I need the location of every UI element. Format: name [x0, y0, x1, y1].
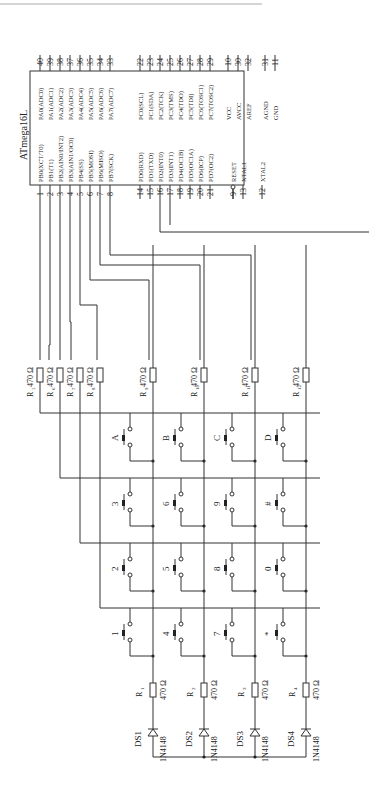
- chip-pin-number: 29: [206, 58, 215, 66]
- switch-contact: [281, 638, 285, 642]
- key-switch: #: [263, 478, 308, 528]
- chip-pin-number: 30: [234, 58, 243, 66]
- switch-button: [224, 500, 227, 506]
- resistor-value: 470 Ω: [241, 367, 250, 387]
- key-label: 3: [110, 501, 120, 506]
- switch-button: [173, 500, 176, 506]
- chip-pin-number: 31: [261, 58, 270, 66]
- switch-contact: [230, 443, 234, 447]
- chip-pin-number: 39: [46, 58, 55, 66]
- switch-contact: [281, 573, 285, 577]
- resistor-label-r6: R6470 Ω: [46, 367, 56, 397]
- key-label: 1: [110, 632, 120, 637]
- switch-contact: [128, 492, 132, 496]
- diode-ref: DS1: [133, 731, 143, 747]
- chip-pin-label: PD4(OC1B): [177, 149, 185, 182]
- key-switch: B: [161, 413, 206, 463]
- resistor-label-r12: R12470 Ω: [292, 367, 302, 397]
- schematic: ATmega16L PB0(XCT/T0)1PB1(T1)2PB2(AIN0/I…: [0, 0, 369, 792]
- switch-contact: [179, 508, 183, 512]
- resistor-letter: R: [135, 691, 144, 697]
- chip-pin-label: PC6(TOSC1): [197, 85, 205, 120]
- diode-symbol: [250, 729, 260, 736]
- chip-pin-label: PB1(T1): [47, 159, 55, 182]
- resistor-letter: R: [186, 691, 195, 697]
- chip-pin-number: 10: [224, 58, 233, 66]
- switch-contact: [128, 427, 132, 431]
- chip-pin-label: PB7(SCK): [107, 154, 115, 182]
- chip-pin-label: PD5(OC1A): [187, 149, 195, 182]
- switch-contact: [179, 492, 183, 496]
- resistor-letter: R: [86, 391, 95, 397]
- switch-button: [275, 565, 278, 571]
- switch-button: [275, 630, 278, 636]
- resistor-value: 470 Ω: [190, 367, 199, 387]
- chip-pin-number: 28: [196, 58, 205, 66]
- resistor-value: 470 Ω: [66, 367, 75, 387]
- key-switch: 0: [263, 543, 308, 593]
- chip-pin-number: 32: [244, 58, 253, 66]
- switch-contact: [179, 573, 183, 577]
- key-switch: *: [263, 608, 308, 658]
- chip-pin-label: PB2(AIN0/INT2): [57, 136, 65, 182]
- chip-pin-label: PC7(TOSC2): [207, 85, 215, 120]
- switch-button: [224, 565, 227, 571]
- key-label: 8: [212, 566, 222, 571]
- resistor-body: [201, 368, 207, 382]
- key-label: 6: [161, 501, 171, 506]
- chip-atmega16l: ATmega16L PB0(XCT/T0)1PB1(T1)2PB2(AIN0/I…: [18, 55, 280, 199]
- chip-pin-number: 20: [196, 188, 205, 196]
- resistor-value: 470 Ω: [26, 367, 35, 387]
- key-label: 4: [161, 631, 171, 636]
- chip-pin-label: PA6(ADC6): [97, 88, 105, 120]
- chip-pin-label: PD2(INT0): [157, 152, 165, 182]
- chip-pin-number: 38: [56, 58, 65, 66]
- diode-part: 1N4148: [261, 736, 270, 762]
- switch-button: [224, 630, 227, 636]
- chip-pin-number: 33: [106, 58, 115, 66]
- resistor-body: [97, 368, 103, 382]
- keypad-matrix: ABCD369#2580147*: [40, 382, 320, 660]
- chip-pin-label: PA2(ADC2): [57, 88, 65, 120]
- diode-symbol: [199, 729, 209, 736]
- chip-pin-label: PC4(TDO): [177, 91, 185, 120]
- chip-pin-label: PB0(XCT/T0): [37, 144, 45, 182]
- diode-symbol: [301, 729, 311, 736]
- resistor-letter: R: [241, 391, 250, 397]
- chip-pin-label: PA7(ADC7): [107, 88, 115, 120]
- key-switch: 5: [161, 543, 206, 593]
- chip-pin-label: PC1(SDA): [147, 91, 155, 120]
- chip-name: ATmega16L: [18, 110, 29, 160]
- chip-pin-label: PD0(RXD): [137, 152, 145, 182]
- key-switch: A: [110, 413, 155, 463]
- chip-pin-number: 11: [271, 58, 280, 66]
- diode-part: 1N4148: [210, 736, 219, 762]
- resistor-body: [252, 368, 258, 382]
- key-label: 2: [110, 567, 120, 572]
- key-label: *: [263, 631, 273, 636]
- resistor-letter: R: [292, 391, 301, 397]
- chip-pin-number: 37: [66, 58, 75, 66]
- chip-pin-label: PB3(AIN1/OC0): [67, 138, 75, 182]
- chip-pin-number: 40: [36, 58, 45, 66]
- chip-pin-label: PD3(INT1): [167, 152, 175, 182]
- chip-pin-number: 26: [176, 58, 185, 66]
- resistor-value: 470 Ω: [139, 367, 148, 387]
- diode-ref: DS4: [286, 730, 296, 747]
- switch-button: [224, 435, 227, 441]
- resistor-letter: R: [190, 391, 199, 397]
- diode-section: R1470 ΩDS11N4148R2470 ΩDS21N4148R3470 ΩD…: [133, 660, 321, 762]
- switch-contact: [230, 557, 234, 561]
- switch-contact: [230, 573, 234, 577]
- switch-contact: [128, 508, 132, 512]
- switch-button: [122, 435, 125, 441]
- resistor-letter: R: [139, 391, 148, 397]
- chip-pin-label: PB5(MOSI): [87, 150, 95, 182]
- key-label: 9: [212, 501, 222, 506]
- resistor-letter: R: [26, 391, 35, 397]
- switch-contact: [281, 492, 285, 496]
- resistor-value: 470 Ω: [312, 680, 321, 700]
- switch-contact: [230, 427, 234, 431]
- chip-pin-label: PA1(ADC1): [47, 88, 55, 120]
- chip-pin-label: PC3(TMS): [167, 91, 175, 120]
